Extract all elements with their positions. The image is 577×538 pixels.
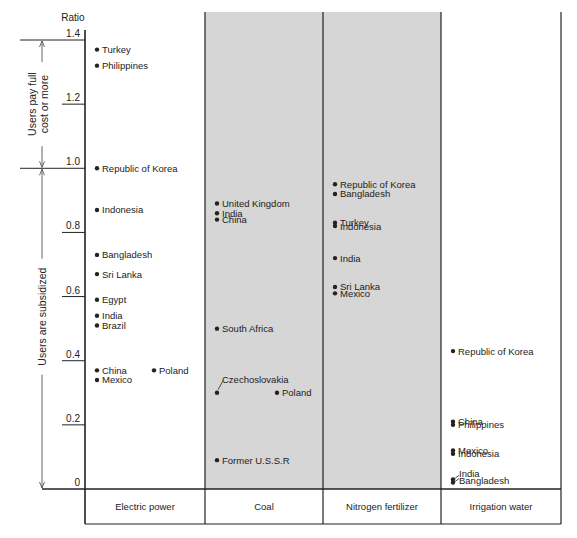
data-point bbox=[333, 256, 337, 260]
point-label: Mexico bbox=[340, 288, 370, 299]
point-label: China bbox=[222, 214, 248, 225]
data-point bbox=[215, 458, 219, 462]
y-tick-label: 0.2 bbox=[66, 413, 80, 424]
data-point bbox=[215, 391, 219, 395]
bracket-annotations: Users pay fullcost or moreUsers are subs… bbox=[26, 41, 50, 488]
data-point bbox=[451, 480, 455, 484]
category-label: Nitrogen fertilizer bbox=[346, 501, 418, 512]
shaded-column bbox=[205, 12, 323, 489]
point-label: Republic of Korea bbox=[102, 163, 178, 174]
point-label: Indonesia bbox=[340, 221, 382, 232]
data-point bbox=[95, 368, 99, 372]
point-label: Poland bbox=[159, 365, 189, 376]
point-label: Indonesia bbox=[458, 448, 500, 459]
subsidy-ratio-chart: Ratio1.41.21.00.80.60.40.20 Users pay fu… bbox=[0, 0, 577, 538]
data-point bbox=[215, 326, 219, 330]
data-point bbox=[95, 298, 99, 302]
data-point bbox=[215, 201, 219, 205]
data-point bbox=[95, 63, 99, 67]
data-point bbox=[152, 368, 156, 372]
point-label: Czechoslovakia bbox=[222, 374, 289, 385]
point-label: Bangladesh bbox=[340, 188, 390, 199]
category-labels: Electric powerCoalNitrogen fertilizerIrr… bbox=[115, 501, 532, 512]
data-point bbox=[451, 423, 455, 427]
point-label: Turkey bbox=[102, 44, 131, 55]
data-point bbox=[95, 323, 99, 327]
data-point bbox=[95, 314, 99, 318]
point-label: India bbox=[340, 253, 361, 264]
bracket-label-subsidized: Users are subsidized bbox=[36, 267, 48, 365]
point-label: Poland bbox=[282, 387, 312, 398]
point-label: Bangladesh bbox=[459, 475, 509, 486]
data-point bbox=[215, 211, 219, 215]
point-label: Indonesia bbox=[102, 204, 144, 215]
point-label: Philippines bbox=[102, 60, 148, 71]
y-tick-label: 0.6 bbox=[66, 285, 80, 296]
y-tick-label: 0.8 bbox=[66, 220, 80, 231]
data-point bbox=[333, 182, 337, 186]
category-label: Coal bbox=[254, 501, 274, 512]
shaded-column bbox=[323, 12, 441, 489]
data-point bbox=[95, 378, 99, 382]
point-label: Philippines bbox=[458, 419, 504, 430]
data-point bbox=[95, 272, 99, 276]
point-label: Republic of Korea bbox=[458, 346, 534, 357]
data-point bbox=[95, 166, 99, 170]
data-point bbox=[333, 291, 337, 295]
data-point bbox=[333, 224, 337, 228]
data-point bbox=[95, 47, 99, 51]
point-label: Bangladesh bbox=[102, 249, 152, 260]
y-tick-label: 0 bbox=[74, 477, 80, 488]
category-label: Irrigation water bbox=[470, 501, 533, 512]
category-label: Electric power bbox=[115, 501, 175, 512]
point-label: Egypt bbox=[102, 294, 127, 305]
point-label: Sri Lanka bbox=[102, 269, 143, 280]
y-tick-label: 1.4 bbox=[66, 28, 80, 39]
data-point bbox=[451, 452, 455, 456]
point-label: Mexico bbox=[102, 374, 132, 385]
data-point bbox=[451, 349, 455, 353]
bracket-label-full-cost: Users pay fullcost or more bbox=[26, 72, 50, 136]
y-tick-label: 0.4 bbox=[66, 349, 80, 360]
point-label: South Africa bbox=[222, 323, 274, 334]
data-point bbox=[333, 285, 337, 289]
y-tick-label: 1.0 bbox=[66, 156, 80, 167]
data-point bbox=[333, 192, 337, 196]
data-point bbox=[95, 208, 99, 212]
data-point bbox=[95, 253, 99, 257]
y-axis-title: Ratio bbox=[61, 12, 85, 23]
data-point bbox=[275, 391, 279, 395]
y-tick-label: 1.2 bbox=[66, 92, 80, 103]
point-label: Former U.S.S.R bbox=[222, 455, 290, 466]
point-label: Brazil bbox=[102, 320, 126, 331]
data-point bbox=[215, 217, 219, 221]
